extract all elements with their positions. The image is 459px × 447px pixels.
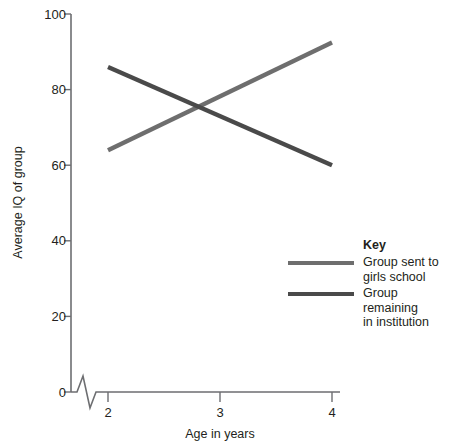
legend-swatch-icon-group-sent-to-girls-school <box>288 261 354 265</box>
x-tick-label-4: 4 <box>317 406 347 419</box>
legend-label-group-remaining-in-institution: Group remaining in institution <box>363 286 456 330</box>
legend-title: Key <box>363 238 456 252</box>
chart-container: 100 80 60 40 20 0 2 3 4 Average IQ of gr… <box>0 0 459 447</box>
legend-item-group-sent-to-girls-school: Group sent to girls school <box>288 255 456 284</box>
legend-label-line-1: Group sent to <box>363 255 439 269</box>
legend-label-line-1: Group remaining <box>363 286 418 315</box>
legend-label-group-sent-to-girls-school: Group sent to girls school <box>363 255 456 284</box>
chart-legend: Key Group sent to girls school Group rem… <box>288 238 456 332</box>
legend-item-group-remaining-in-institution: Group remaining in institution <box>288 286 456 330</box>
legend-label-line-2: in institution <box>363 315 429 329</box>
y-axis-title: Average IQ of group <box>12 123 25 283</box>
x-tick-label-3: 3 <box>205 406 235 419</box>
legend-swatch-icon-group-remaining-in-institution <box>288 292 354 296</box>
x-axis-title: Age in years <box>108 428 332 441</box>
legend-label-line-2: girls school <box>363 270 426 284</box>
x-axis-tick-labels: 2 3 4 <box>0 0 459 447</box>
x-tick-label-2: 2 <box>93 406 123 419</box>
